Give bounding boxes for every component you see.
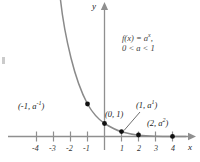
point-label-1: (1, a1) — [136, 99, 157, 109]
scan-artifact — [2, 57, 5, 64]
x-tick-label-0: -4 — [32, 145, 39, 153]
x-tick-label-7: 4 — [171, 145, 175, 153]
function-annotation: f(x) = ax, 0 < a < 1 — [122, 32, 155, 54]
point-label-neg1-prefix: (-1, a — [18, 101, 36, 111]
y-axis — [101, 2, 108, 150]
point-label-0-text: (0, 1) — [105, 109, 123, 119]
point-label-2: (2, a2) — [147, 117, 168, 127]
point-label-2-prefix: (2, a — [147, 118, 163, 128]
point-label-1-suffix: ) — [155, 100, 158, 110]
point-4 — [170, 134, 175, 139]
point-label-0: (0, 1) — [105, 110, 123, 119]
point-2 — [136, 133, 141, 138]
exponential-function-figure: y x f(x) = ax, 0 < a < 1 (-1, a-1) (0, 1… — [0, 0, 200, 162]
function-expression: f(x) = a — [122, 33, 148, 43]
point-label-neg1: (-1, a-1) — [18, 100, 44, 110]
function-comma: , — [151, 33, 153, 43]
x-axis-label: x — [188, 143, 192, 152]
x-tick-label-5: 2 — [137, 145, 141, 153]
x-tick-label-3: -1 — [83, 145, 90, 153]
x-tick-label-6: 3 — [154, 145, 158, 153]
leader-line-pt1 — [124, 112, 140, 131]
y-axis-label: y — [92, 2, 96, 11]
point-label-2-suffix: ) — [166, 118, 169, 128]
x-tick-label-2: -2 — [66, 145, 73, 153]
point-label-neg1-suffix: ) — [41, 101, 44, 111]
function-annotation-line2: 0 < a < 1 — [122, 43, 155, 54]
x-tick-label-1: -3 — [49, 145, 56, 153]
x-tick-label-4: 1 — [120, 145, 124, 153]
plot-area — [0, 0, 200, 162]
point-0 — [102, 121, 107, 126]
point-neg1 — [85, 102, 90, 107]
point-label-1-prefix: (1, a — [136, 100, 152, 110]
function-annotation-line1: f(x) = ax, — [122, 32, 155, 43]
point-1 — [119, 129, 124, 134]
